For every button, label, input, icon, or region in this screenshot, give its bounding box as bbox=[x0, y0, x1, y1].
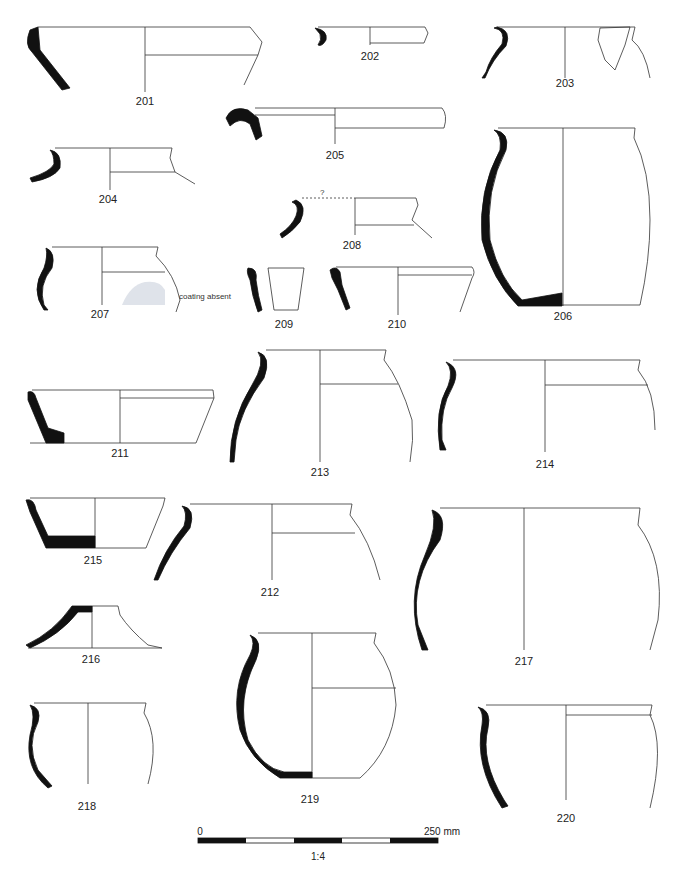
vessel-label-214: 214 bbox=[536, 458, 554, 470]
scale-ratio-label: 1:4 bbox=[311, 851, 325, 862]
coating-absent-note: coating absent bbox=[179, 292, 231, 301]
vessel-214-drawing bbox=[438, 360, 655, 452]
vessel-206-drawing bbox=[481, 128, 650, 306]
vessel-label-205: 205 bbox=[326, 149, 344, 161]
vessel-213-drawing bbox=[230, 350, 413, 462]
vessel-label-210: 210 bbox=[388, 318, 406, 330]
vessel-219-drawing bbox=[237, 633, 396, 778]
vessel-211-drawing bbox=[28, 390, 214, 443]
vessel-label-211: 211 bbox=[111, 447, 129, 459]
vessel-218-drawing bbox=[29, 703, 153, 788]
vessel-220-drawing bbox=[478, 705, 658, 808]
vessel-215-drawing bbox=[26, 498, 165, 548]
vessel-label-201: 201 bbox=[136, 95, 154, 107]
scale-end-label: 250 mm bbox=[424, 826, 460, 837]
uncertain-diameter-mark: ? bbox=[320, 188, 324, 197]
vessel-207-drawing bbox=[37, 247, 180, 312]
vessel-label-209: 209 bbox=[275, 318, 293, 330]
vessel-217-drawing bbox=[414, 508, 659, 650]
vessel-label-204: 204 bbox=[99, 193, 117, 205]
vessel-label-216: 216 bbox=[82, 653, 100, 665]
vessel-label-206: 206 bbox=[554, 310, 572, 322]
vessel-label-207: 207 bbox=[91, 308, 109, 320]
vessel-205-drawing bbox=[226, 108, 446, 144]
vessel-202-drawing bbox=[315, 27, 428, 45]
vessel-212-drawing bbox=[154, 504, 380, 580]
vessel-209-drawing bbox=[247, 268, 304, 312]
scale-bar bbox=[198, 838, 438, 843]
vessel-label-220: 220 bbox=[557, 812, 575, 824]
vessel-label-213: 213 bbox=[311, 466, 329, 478]
vessel-label-218: 218 bbox=[78, 800, 96, 812]
vessel-208-drawing bbox=[280, 198, 432, 238]
vessel-label-203: 203 bbox=[556, 77, 574, 89]
vessel-204-drawing bbox=[30, 148, 195, 190]
vessel-210-drawing bbox=[330, 267, 474, 315]
vessel-203-drawing bbox=[482, 27, 650, 78]
scale-start-label: 0 bbox=[197, 826, 203, 837]
vessel-label-212: 212 bbox=[261, 586, 279, 598]
vessel-label-217: 217 bbox=[515, 655, 533, 667]
vessel-label-208: 208 bbox=[343, 239, 361, 251]
vessel-201-drawing bbox=[27, 27, 262, 92]
vessel-label-215: 215 bbox=[84, 554, 102, 566]
pottery-drawing-sheet bbox=[0, 0, 676, 874]
vessel-label-202: 202 bbox=[361, 50, 379, 62]
vessel-label-219: 219 bbox=[301, 793, 319, 805]
vessel-216-drawing bbox=[26, 606, 162, 648]
